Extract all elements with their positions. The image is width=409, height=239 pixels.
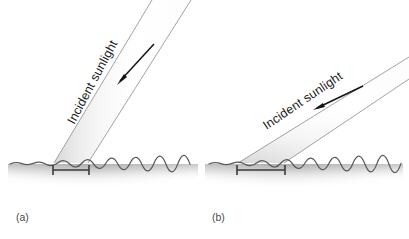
panel-caption-b: (b)	[212, 211, 225, 223]
figure-canvas: Incident sunlight (a) Inciden	[0, 0, 409, 239]
sunbeam-a	[54, 0, 191, 163]
ground-shade-band-b	[205, 164, 403, 180]
panel-b: Incident sunlight (b)	[205, 57, 409, 223]
panel-a: Incident sunlight (a)	[8, 0, 198, 223]
sunbeam-edge-left-b	[238, 57, 409, 163]
panel-caption-a: (a)	[16, 211, 29, 223]
sunlight-angle-figure: Incident sunlight (a) Inciden	[0, 0, 409, 239]
